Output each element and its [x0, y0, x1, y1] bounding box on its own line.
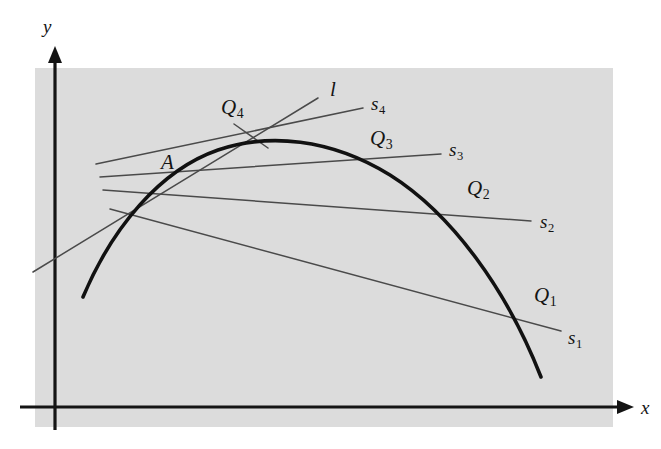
- point-q1-letter: Q: [534, 283, 549, 307]
- secant-s3-subscript: 3: [457, 149, 463, 163]
- point-q2-subscript: 2: [483, 187, 490, 202]
- secant-s1-letter: s: [568, 327, 575, 348]
- point-a-label: A: [161, 152, 174, 173]
- point-q2-letter: Q: [467, 176, 482, 200]
- point-q3-letter: Q: [370, 126, 385, 150]
- secant-s4-subscript: 4: [379, 103, 385, 117]
- secant-s1-subscript: 1: [576, 337, 582, 351]
- y-axis-arrowhead: [48, 46, 62, 63]
- secant-s2-label: s2: [540, 212, 554, 234]
- figure-canvas: y x A l Q4 s1Q1s2Q2s3Q3s4: [0, 0, 661, 449]
- point-q2-label: Q2: [467, 178, 490, 202]
- point-q1-subscript: 1: [550, 294, 557, 309]
- point-q3-label: Q3: [370, 128, 393, 152]
- secant-s2-letter: s: [540, 211, 547, 232]
- point-q3-subscript: 3: [386, 137, 393, 152]
- point-q1-label: Q1: [534, 285, 557, 309]
- x-axis-label: x: [641, 398, 649, 417]
- point-q4-subscript: 4: [237, 106, 244, 121]
- secant-s3-letter: s: [449, 139, 456, 160]
- point-q4-label: Q4: [221, 97, 244, 121]
- diagram-svg: [0, 0, 661, 449]
- y-axis-label: y: [43, 17, 51, 36]
- secant-s4-letter: s: [371, 93, 378, 114]
- x-axis-arrowhead: [617, 400, 634, 414]
- secant-s4-label: s4: [371, 94, 385, 116]
- point-q4-letter: Q: [221, 95, 236, 119]
- secant-s3-label: s3: [449, 140, 463, 162]
- secant-s1-label: s1: [568, 328, 582, 350]
- background-panel: [35, 68, 613, 427]
- secant-s2-subscript: 2: [548, 221, 554, 235]
- tangent-line-label: l: [330, 79, 336, 100]
